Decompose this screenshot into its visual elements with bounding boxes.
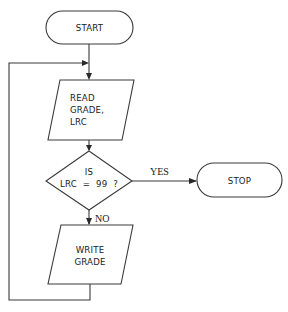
read-label-line-3: LRC	[70, 117, 87, 127]
arrow-into-stop-icon	[189, 178, 197, 184]
flowchart: START READ GRADE, LRC IS LRC = 99 ? YES …	[0, 0, 288, 312]
yes-label: YES	[150, 166, 169, 177]
write-label-line-1: WRITE	[76, 245, 105, 255]
start-label: START	[76, 23, 104, 33]
write-node: WRITE GRADE	[48, 225, 133, 284]
start-node: START	[46, 11, 133, 44]
no-label: NO	[95, 213, 109, 224]
arrow-loop-merge-icon	[82, 60, 89, 66]
read-label-line-2: GRADE,	[70, 105, 104, 115]
decision-label-line-2: LRC = 99 ?	[60, 179, 118, 189]
read-label-line-1: READ	[70, 93, 95, 103]
arrow-into-decision-icon	[86, 145, 92, 151]
stop-label: STOP	[228, 176, 251, 186]
stop-node: STOP	[197, 163, 282, 197]
read-node: READ GRADE, LRC	[48, 80, 134, 140]
write-label-line-2: GRADE	[74, 257, 105, 267]
arrow-into-read-icon	[86, 73, 92, 80]
decision-node: IS LRC = 99 ?	[46, 151, 132, 210]
arrow-into-write-icon	[86, 218, 92, 225]
decision-label-line-1: IS	[85, 167, 93, 177]
